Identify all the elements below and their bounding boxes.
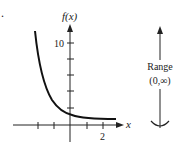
exponential-graph-figure: . f(x) 10 x 2 Range (0,∞) xyxy=(0,0,178,159)
x-axis-label: x xyxy=(125,118,131,130)
range-label: Range xyxy=(147,61,173,72)
x-axis-arrow-icon xyxy=(116,122,124,128)
y-axis-arrow-icon xyxy=(67,24,73,32)
range-interval: (0,∞) xyxy=(149,75,170,87)
y-tick-label-10: 10 xyxy=(54,38,64,49)
exponential-curve xyxy=(35,31,116,119)
y-axis-label: f(x) xyxy=(62,10,78,23)
range-up-arrow-icon xyxy=(157,26,163,34)
x-tick-label-2: 2 xyxy=(100,131,105,142)
bullet-dot: . xyxy=(1,6,4,20)
